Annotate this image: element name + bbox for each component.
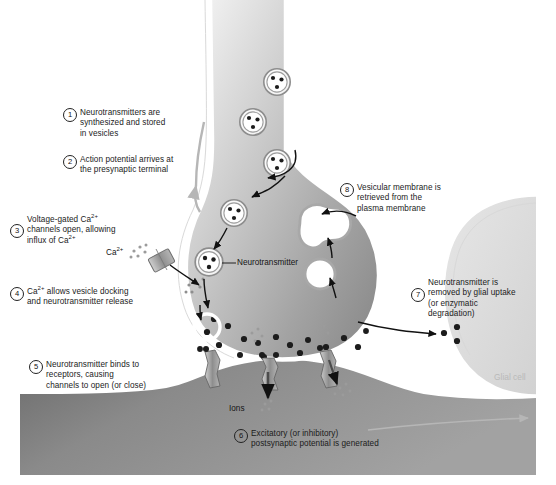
vesicle-1: [264, 69, 290, 95]
ions-label: Ions: [229, 404, 244, 414]
step-number-3: 3: [10, 224, 24, 238]
neurotransmitter-label: Neurotransmitter: [237, 258, 298, 268]
step-label-1: Neurotransmitters are synthesized and st…: [80, 108, 215, 139]
step-label-5: Neurotransmitter binds to receptors, cau…: [46, 360, 191, 391]
step-number-7: 7: [411, 288, 425, 302]
step-number-2: 2: [63, 155, 77, 169]
glial-cell-label: Glial cell: [494, 372, 526, 382]
calcium-label: Ca2+: [106, 248, 123, 258]
step-label-4: Ca2+ allows vesicle dockingand neurotran…: [27, 287, 187, 308]
step-label-7: Neurotransmitter is removed by glial upt…: [428, 278, 553, 320]
step-label-8: Vesicular membrane is retrieved from the…: [357, 183, 482, 214]
vesicle-2: [240, 109, 266, 135]
step-number-8: 8: [340, 183, 354, 197]
step-number-5: 5: [29, 360, 43, 374]
step-label-6: Excitatory (or inhibitory) postsynaptic …: [251, 429, 461, 450]
calcium-channel: [148, 248, 175, 272]
step-number-1: 1: [63, 108, 77, 122]
vesicle-4: [221, 200, 247, 226]
step-label-2: Action potential arrives at the presynap…: [80, 155, 225, 176]
step-number-6: 6: [234, 429, 248, 443]
presynaptic-terminal: [178, 0, 379, 360]
step-label-3: Voltage-gated Ca2+channels open, allowin…: [27, 215, 167, 246]
step-number-4: 4: [10, 287, 24, 301]
synapse-diagram: 1 Neurotransmitters are synthesized and …: [0, 0, 556, 485]
